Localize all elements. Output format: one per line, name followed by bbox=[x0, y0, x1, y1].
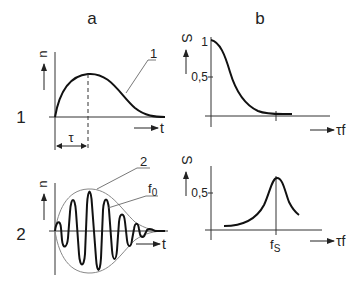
panel-b1: S 1 0,5 τf bbox=[179, 33, 346, 138]
x-axis-label: τf bbox=[336, 122, 346, 138]
carrier-label: f0 bbox=[148, 181, 158, 198]
envelope-leader-line bbox=[97, 168, 137, 189]
tick-label-0.5: 0,5 bbox=[191, 186, 208, 200]
figure: a b 1 2 u t 1 τ u t 2 f0 bbox=[0, 0, 362, 291]
y-axis-label: S bbox=[179, 33, 195, 42]
y-axis-label: S bbox=[179, 155, 195, 164]
pulse-curve bbox=[55, 74, 165, 117]
tick-label-0.5: 0,5 bbox=[191, 70, 208, 84]
column-b-label: b bbox=[255, 9, 264, 28]
row-1-label: 1 bbox=[16, 108, 25, 127]
column-a-label: a bbox=[87, 9, 97, 28]
row-2-label: 2 bbox=[16, 225, 25, 244]
envelope-lower bbox=[55, 231, 165, 273]
x-axis-label: t bbox=[162, 236, 166, 252]
panel-b2: S 0,5 fS τf bbox=[179, 155, 346, 254]
carrier-leader-line bbox=[108, 196, 146, 208]
curve-leader-line bbox=[126, 60, 148, 93]
panel-a2: u t 2 f0 bbox=[37, 154, 168, 275]
spectrum-curve bbox=[211, 40, 292, 114]
tau-label: τ bbox=[68, 130, 74, 145]
x-axis-label: t bbox=[160, 120, 164, 136]
x-axis-label: τf bbox=[336, 233, 346, 249]
y-axis-label: u bbox=[37, 180, 52, 187]
spectrum-curve bbox=[224, 178, 299, 226]
curve-label: 1 bbox=[150, 46, 157, 61]
tick-label-1: 1 bbox=[201, 35, 208, 49]
envelope-label: 2 bbox=[140, 154, 147, 169]
y-axis-label: u bbox=[37, 50, 52, 57]
peak-frequency-label: fS bbox=[270, 237, 281, 254]
panel-a1: u t 1 τ bbox=[37, 46, 165, 150]
